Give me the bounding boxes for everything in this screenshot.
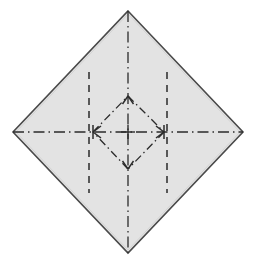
origami-diagram bbox=[0, 0, 255, 266]
origami-figure-container bbox=[0, 0, 255, 266]
